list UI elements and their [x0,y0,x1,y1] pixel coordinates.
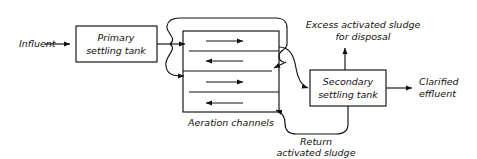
return-feed-branch [166,44,184,76]
right-recycle-inlet-arrow [274,62,286,68]
clarified-effluent-label-line2: effluent [419,88,457,99]
aeration-channels-label: Aeration channels [187,117,274,128]
secondary-tank-label-line1: Secondary [323,76,374,87]
return-activated-sludge-line [276,106,348,134]
excess-sludge-label-line1: Excess activated sludge [306,19,421,30]
secondary-tank-label-line2: settling tank [318,89,378,100]
primary-tank-label-line1: Primary [98,32,135,43]
primary-tank-label-line2: settling tank [86,45,146,56]
return-sludge-label-line1: Return [300,136,332,147]
process-flow-diagram: Influent Primary settling tank Aeration … [0,0,477,159]
excess-sludge-label-line2: for disposal [336,31,391,42]
return-sludge-label-line2: activated sludge [277,147,356,158]
clarified-effluent-label-line1: Clarified [419,76,460,87]
diagram-canvas: Influent Primary settling tank Aeration … [0,0,477,159]
influent-label: Influent [19,38,57,49]
aeration-to-secondary-line [279,47,308,88]
